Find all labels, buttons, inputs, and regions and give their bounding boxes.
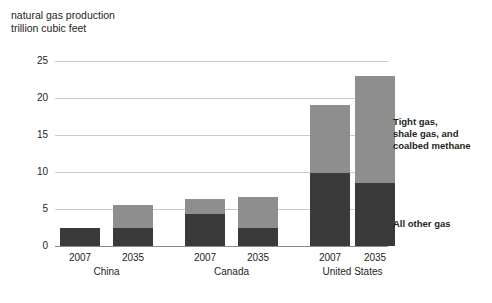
x-tick-united-states-2035: 2035 (355, 252, 395, 263)
legend-label-all-other-gas: All other gas (393, 218, 451, 230)
segment-all-other-gas (185, 214, 225, 246)
axis-baseline-0 (55, 246, 388, 247)
x-tick-china-2007: 2007 (60, 252, 100, 263)
chart-title-line1: natural gas production (11, 9, 115, 21)
segment-tight-shale-coalbed (185, 199, 225, 215)
y-tick-15: 15 (37, 130, 48, 140)
plot-area (55, 61, 388, 246)
y-tick-25: 25 (37, 56, 48, 66)
chart-title: natural gas production trillion cubic fe… (11, 9, 115, 35)
y-tick-10: 10 (37, 167, 48, 177)
segment-all-other-gas (355, 183, 395, 246)
y-tick-5: 5 (42, 204, 48, 214)
chart-subtitle-line2: trillion cubic feet (11, 22, 86, 34)
x-tick-canada-2035: 2035 (238, 252, 278, 263)
gridline-25 (55, 61, 388, 62)
legend-label-tight-shale-coalbed: Tight gas, shale gas, and coalbed methan… (393, 116, 471, 152)
y-tick-20: 20 (37, 93, 48, 103)
x-axis-labels: 2007 2035 China 2007 2035 Canada 2007 20… (0, 252, 492, 292)
x-group-canada: Canada (185, 266, 278, 277)
gridline-20 (55, 98, 388, 99)
x-group-china: China (60, 266, 153, 277)
y-axis-labels: 25 20 15 10 5 0 (0, 61, 48, 246)
x-tick-china-2035: 2035 (113, 252, 153, 263)
chart-figure: natural gas production trillion cubic fe… (0, 0, 492, 303)
segment-tight-shale-coalbed (310, 105, 350, 172)
segment-all-other-gas (60, 228, 100, 246)
segment-all-other-gas (113, 228, 153, 247)
y-tick-0: 0 (42, 241, 48, 251)
x-tick-united-states-2007: 2007 (310, 252, 350, 263)
segment-tight-shale-coalbed (238, 197, 278, 227)
segment-tight-shale-coalbed (355, 76, 395, 183)
x-tick-canada-2007: 2007 (185, 252, 225, 263)
segment-all-other-gas (238, 228, 278, 247)
x-group-united-states: United States (308, 266, 397, 277)
segment-all-other-gas (310, 173, 350, 246)
segment-tight-shale-coalbed (113, 205, 153, 227)
